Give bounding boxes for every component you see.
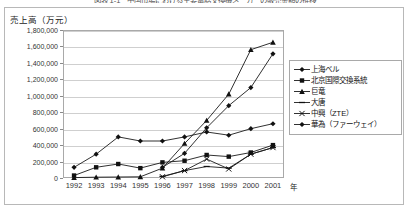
legend-marker-dash-icon [293,97,311,108]
data-point-diamond-filled [299,122,304,127]
series-line [163,148,273,177]
legend-item[interactable]: 華為（ファーウェイ） [293,119,399,130]
y-axis-tick-label: 1,400,000 [2,59,58,66]
legend-marker-square-icon [293,75,311,86]
data-point-cross [226,166,231,171]
y-axis-tick-label: 1,000,000 [2,92,58,99]
data-point-diamond [160,138,165,143]
data-point-square [300,78,304,82]
legend-label: 中興（ZTE） [311,108,353,119]
series-lines [63,30,284,178]
legend-label: 北京国際交換系統 [311,75,367,86]
data-point-square [116,162,120,166]
data-point-diamond [138,138,143,143]
data-point-diamond-filled [270,51,275,56]
data-point-diamond [226,133,231,138]
data-point-square [138,166,142,170]
x-axis-tick-label: 1992 [66,181,83,190]
legend-label: 華為（ファーウェイ） [311,119,381,130]
legend-item[interactable]: 北京国際交換系統 [293,75,399,86]
data-point-triangle [248,47,254,52]
legend-marker-diamond-filled-icon [293,119,311,130]
data-point-square [94,165,98,169]
data-point-triangle [270,40,276,45]
data-point-diamond [270,121,275,126]
x-axis-tick-label: 1997 [176,181,193,190]
data-point-square [227,154,231,158]
x-axis-tick-label: 2001 [265,181,282,190]
data-point-diamond [182,134,187,139]
chart-figure: 図表 1-1 中国市場における主要電話交換機メーカーの販売金額の推移 売上高（万… [0,0,410,215]
x-axis-tick-label: 1999 [220,181,237,190]
legend-item[interactable]: 巨竜 [293,86,399,97]
legend-label: 上海ベル [311,64,339,75]
legend-marker-cross-icon [293,108,311,119]
y-axis-tick-label: 400,000 [2,142,58,149]
chart-legend: 上海ベル北京国際交換系統巨竜大唐中興（ZTE）華為（ファーウェイ） [289,60,402,135]
y-axis-title: 売上高（万元） [10,13,73,25]
x-axis-tick-label: 1994 [110,181,127,190]
x-axis-title: 年 [290,181,297,192]
legend-marker-diamond-icon [293,64,311,75]
y-axis-tick-label: 0 [2,175,58,182]
y-axis-tick-label: 1,600,000 [2,43,58,50]
legend-label: 巨竜 [311,86,325,97]
data-point-diamond [71,165,76,170]
legend-item[interactable]: 大唐 [293,97,399,108]
y-axis-tick-label: 600,000 [2,125,58,132]
series-line [74,42,273,177]
series-group [71,121,275,170]
y-axis-tick-label: 1,200,000 [2,76,58,83]
data-point-cross [204,156,209,161]
x-axis-tick-label: 1993 [88,181,105,190]
legend-item[interactable]: 中興（ZTE） [293,108,399,119]
y-axis-tick-label: 800,000 [2,109,58,116]
y-axis-tick-label: 200,000 [2,158,58,165]
legend-marker-triangle-icon [293,86,311,97]
data-point-triangle [226,91,232,96]
data-point-diamond [248,126,253,131]
x-axis-tick-label: 1996 [154,181,171,190]
x-axis-tick-label: 1995 [132,181,149,190]
x-axis-tick-label: 1998 [198,181,215,190]
data-point-square [160,160,164,164]
data-point-square [182,159,186,163]
legend-item[interactable]: 上海ベル [293,64,399,75]
figure-caption: 図表 1-1 中国市場における主要電話交換機メーカーの販売金額の推移 [0,0,410,3]
legend-label: 大唐 [311,97,325,108]
y-axis-tick-label: 1,800,000 [2,27,58,34]
series-group [71,40,276,180]
data-point-diamond [299,67,304,72]
x-axis-tick-label: 2000 [243,181,260,190]
y-axis-tick [60,178,63,179]
data-point-square [204,153,208,157]
